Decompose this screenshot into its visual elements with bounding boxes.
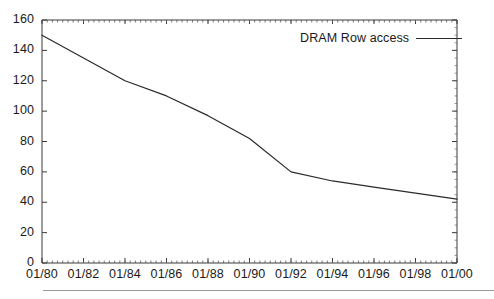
x-axis-minor-ticks — [42, 20, 457, 263]
y-tick-label: 40 — [0, 194, 34, 208]
y-tick-label: 100 — [0, 103, 34, 117]
axes-frame — [42, 20, 457, 263]
y-tick-label: 20 — [0, 225, 34, 239]
footer-rule — [43, 290, 494, 291]
x-tick-label: 01/00 — [427, 267, 487, 281]
line-swatch — [416, 38, 462, 39]
chart-figure: 020406080100120140160 01/8001/8201/8401/… — [0, 0, 494, 299]
y-tick-label: 80 — [0, 134, 34, 148]
chart-legend: DRAM Row access — [300, 29, 462, 47]
y-axis-major-ticks — [42, 20, 457, 263]
x-axis-major-ticks — [42, 20, 457, 263]
y-tick-label: 120 — [0, 73, 34, 87]
y-tick-label: 160 — [0, 12, 34, 26]
legend-label: DRAM Row access — [300, 31, 409, 45]
y-tick-label: 60 — [0, 164, 34, 178]
data-series-dram-row-access — [42, 35, 457, 199]
y-tick-label: 140 — [0, 42, 34, 56]
